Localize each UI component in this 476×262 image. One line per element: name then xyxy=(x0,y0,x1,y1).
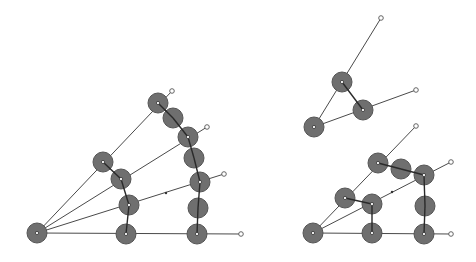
left-fan-diagram-pivot-point xyxy=(35,231,38,234)
right-bottom-grid-diagram-link-segment xyxy=(424,175,425,206)
right-bottom-grid-diagram-pivot-point xyxy=(422,232,425,235)
right-bottom-grid-diagram-midpoint-mark xyxy=(391,191,393,193)
left-fan-diagram-ray-endpoint-marker xyxy=(170,89,175,94)
right-bottom-grid-diagram-ray-endpoint-marker xyxy=(414,124,419,129)
left-fan-diagram-pivot-point xyxy=(127,203,130,206)
left-fan-diagram-ray-line xyxy=(37,233,241,234)
right-top-triangle-diagram-pivot-point xyxy=(312,125,315,128)
rays-layer xyxy=(37,18,451,234)
right-bottom-grid-diagram-ray-endpoint-marker xyxy=(449,160,454,165)
diagram-canvas xyxy=(0,0,476,262)
right-top-triangle-diagram-ray-endpoint-marker xyxy=(379,16,384,21)
left-fan-diagram-link-segment xyxy=(197,208,198,234)
right-bottom-grid-diagram-link-segment xyxy=(424,206,425,234)
right-bottom-grid-diagram-ray-line xyxy=(313,126,416,233)
left-fan-diagram-pivot-point xyxy=(124,232,127,235)
right-bottom-grid-diagram-pivot-point xyxy=(311,231,314,234)
left-fan-diagram-ray-endpoint-marker xyxy=(239,232,244,237)
left-fan-diagram-pivot-point xyxy=(195,232,198,235)
right-top-triangle-diagram-pivot-point xyxy=(340,80,343,83)
joints-layer xyxy=(27,72,435,244)
left-fan-diagram-ray-endpoint-marker xyxy=(222,172,227,177)
right-bottom-grid-diagram-pivot-point xyxy=(422,173,425,176)
right-top-triangle-diagram-pivot-point xyxy=(361,108,364,111)
left-fan-diagram-pivot-point xyxy=(198,180,201,183)
left-fan-diagram-pivot-point xyxy=(156,101,159,104)
right-bottom-grid-diagram-pivot-point xyxy=(370,202,373,205)
tips-layer xyxy=(35,16,453,237)
right-bottom-grid-diagram-pivot-point xyxy=(343,196,346,199)
left-fan-diagram-pivot-point xyxy=(101,160,104,163)
left-fan-diagram-pivot-point xyxy=(119,177,122,180)
right-top-triangle-diagram-link-segment xyxy=(342,82,363,110)
right-bottom-grid-diagram-pivot-point xyxy=(376,161,379,164)
right-bottom-grid-diagram-pivot-point xyxy=(370,231,373,234)
right-bottom-grid-diagram-ray-endpoint-marker xyxy=(449,232,454,237)
left-fan-diagram-midpoint-mark xyxy=(165,192,167,194)
left-fan-diagram-ray-endpoint-marker xyxy=(205,125,210,130)
left-fan-diagram-pivot-point xyxy=(186,135,189,138)
right-top-triangle-diagram-ray-endpoint-marker xyxy=(414,88,419,93)
